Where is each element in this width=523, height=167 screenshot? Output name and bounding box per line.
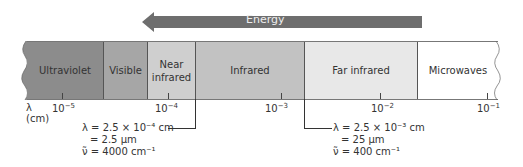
- axis-label: λ(cm): [26, 102, 49, 124]
- tick: [487, 93, 488, 99]
- connector-line: [304, 128, 332, 129]
- tick-label: 10−4: [155, 102, 178, 114]
- annotation-right: λ = 2.5 × 10⁻³ cm = 25 μm ν̃ = 400 cm⁻¹: [333, 122, 425, 158]
- region-label: Far infrared: [332, 64, 390, 77]
- tick-label: 10−3: [265, 102, 288, 114]
- region-near-infrared: Near infrared: [148, 42, 196, 99]
- tick: [281, 93, 282, 99]
- region-infrared: Infrared: [196, 42, 305, 99]
- spectrum-band: Ultraviolet Visible Near infrared Infrar…: [27, 41, 498, 100]
- energy-label: Energy: [246, 13, 285, 26]
- tick: [62, 93, 63, 99]
- region-far-infrared: Far infrared: [305, 42, 418, 99]
- annotation-left: λ = 2.5 × 10⁻⁴ cm = 2.5 μm ν̃ = 4000 cm⁻…: [82, 122, 174, 158]
- region-label: Ultraviolet: [39, 64, 91, 77]
- tick-label: 10−1: [477, 102, 500, 114]
- tick: [380, 93, 381, 99]
- region-microwaves: Microwaves: [418, 42, 498, 99]
- right-wavy-edge-icon: [494, 41, 504, 100]
- connector-line: [304, 99, 305, 129]
- region-visible: Visible: [104, 42, 148, 99]
- tick-label: 10−5: [52, 102, 75, 114]
- tick: [168, 93, 169, 99]
- region-label: Microwaves: [429, 64, 488, 77]
- connector-line: [195, 99, 196, 129]
- region-ultraviolet: Ultraviolet: [27, 42, 104, 99]
- region-label: Visible: [109, 64, 142, 77]
- region-label: Near infrared: [152, 58, 191, 84]
- region-label: Infrared: [230, 64, 269, 77]
- tick-label: 10−2: [371, 102, 394, 114]
